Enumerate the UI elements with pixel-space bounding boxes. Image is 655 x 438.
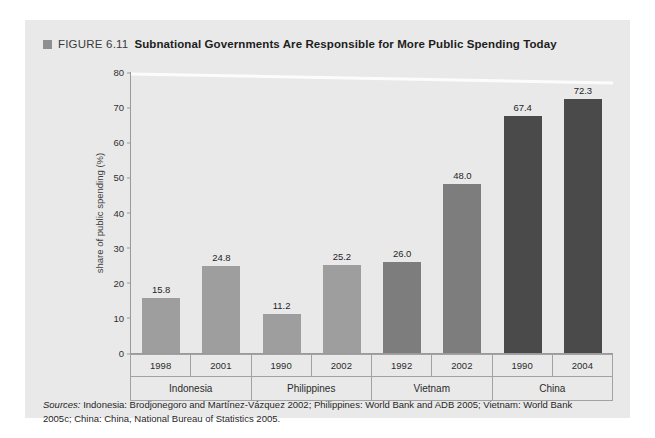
x-axis-year-label: 2001 [191, 355, 251, 376]
bar: 26.0 [383, 262, 421, 353]
x-axis-year-label: 2002 [432, 355, 492, 376]
x-axis-country-label: Vietnam [372, 377, 493, 400]
bar-group: 26.0 [372, 72, 432, 353]
figure-panel: FIGURE 6.11 Subnational Governments Are … [25, 20, 630, 418]
x-axis-year-label: 1990 [493, 355, 553, 376]
sources-label: Sources: [43, 399, 81, 410]
y-tick-label: 10 [113, 312, 131, 323]
square-marker-icon [43, 40, 52, 49]
x-axis-country-label: Indonesia [130, 377, 252, 400]
bar-value-label: 67.4 [513, 102, 532, 113]
y-tick-label: 80 [113, 67, 131, 78]
bar: 48.0 [443, 184, 481, 353]
y-tick-label: 30 [113, 242, 131, 253]
bar-value-label: 26.0 [393, 248, 412, 259]
bar-value-label: 72.3 [574, 85, 593, 96]
bar-group: 25.2 [312, 72, 372, 353]
bar: 72.3 [564, 99, 602, 353]
figure-title: FIGURE 6.11 Subnational Governments Are … [43, 38, 557, 50]
bar: 15.8 [142, 298, 180, 353]
bar-group: 48.0 [432, 72, 492, 353]
x-axis-year-label: 1998 [130, 355, 191, 376]
sources-note: Sources: Indonesia: Brodjonegoro and Mar… [43, 398, 602, 426]
bar: 11.2 [263, 314, 301, 353]
x-axis-year-label: 1992 [372, 355, 432, 376]
bar-value-label: 25.2 [333, 251, 352, 262]
y-axis-title: share of public spending (%) [94, 153, 105, 273]
bar-value-label: 15.8 [152, 284, 171, 295]
y-tick-label: 70 [113, 102, 131, 113]
bar-group: 24.8 [191, 72, 251, 353]
bar-group: 11.2 [252, 72, 312, 353]
sources-body: Indonesia: Brodjonegoro and Martínez-Váz… [43, 399, 572, 424]
bar: 67.4 [504, 116, 542, 353]
x-axis-country-label: Philippines [252, 377, 373, 400]
bar-group: 67.4 [493, 72, 553, 353]
bar-group: 72.3 [553, 72, 613, 353]
chart: share of public spending (%) 01020304050… [80, 72, 613, 354]
x-axis-year-label: 2002 [312, 355, 372, 376]
y-tick-label: 40 [113, 207, 131, 218]
bar: 25.2 [323, 265, 361, 354]
bar-series: 15.824.811.225.226.048.067.472.3 [131, 72, 613, 353]
plot-area: 01020304050607080 15.824.811.225.226.048… [130, 72, 613, 354]
bar-value-label: 48.0 [453, 170, 472, 181]
bar-value-label: 11.2 [273, 300, 291, 311]
bar: 24.8 [202, 266, 240, 353]
x-axis-year-label: 2004 [553, 355, 613, 376]
figure-headline: Subnational Governments Are Responsible … [134, 38, 556, 50]
x-axis-year-label: 1990 [252, 355, 312, 376]
bar-value-label: 24.8 [212, 252, 231, 263]
x-axis-year-row: 19982001199020021992200219902004 [130, 354, 613, 377]
y-tick-label: 20 [113, 277, 131, 288]
y-tick-label: 50 [113, 172, 131, 183]
x-axis-country-label: China [493, 377, 614, 400]
y-tick-label: 60 [113, 137, 131, 148]
bar-group: 15.8 [131, 72, 191, 353]
figure-number: FIGURE 6.11 [58, 38, 128, 50]
x-axis: 19982001199020021992200219902004 Indones… [130, 354, 613, 401]
